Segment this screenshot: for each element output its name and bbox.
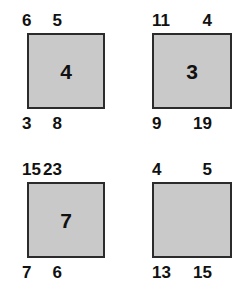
corner-label-top-right: 4 bbox=[203, 12, 212, 29]
puzzle-board: 6 5 4 3 8 11 4 3 9 19 15 23 7 7 6 4 5 13… bbox=[0, 0, 251, 298]
corner-label-bottom-right: 8 bbox=[53, 115, 62, 132]
corner-label-bottom-right: 15 bbox=[193, 264, 212, 281]
corner-label-top-left: 11 bbox=[152, 12, 170, 29]
corner-label-bottom-left: 9 bbox=[152, 115, 161, 132]
corner-label-bottom-left: 3 bbox=[22, 115, 31, 132]
square-shape: 4 bbox=[27, 33, 105, 109]
corner-label-top-right: 5 bbox=[53, 12, 62, 29]
panel-top-left: 6 5 4 3 8 bbox=[0, 0, 106, 149]
corner-label-top-right: 23 bbox=[43, 161, 62, 178]
corner-label-top-left: 6 bbox=[22, 12, 31, 29]
panel-bottom-left: 15 23 7 7 6 bbox=[0, 149, 106, 298]
corner-label-bottom-left: 13 bbox=[152, 264, 171, 281]
corner-label-bottom-right: 6 bbox=[53, 264, 62, 281]
square-shape bbox=[152, 182, 232, 258]
center-value: 7 bbox=[29, 184, 103, 256]
panel-top-right: 11 4 3 9 19 bbox=[125, 0, 231, 149]
corner-label-top-right: 5 bbox=[203, 161, 212, 178]
center-value: 4 bbox=[29, 35, 103, 107]
panel-bottom-right: 4 5 13 15 bbox=[125, 149, 231, 298]
corner-label-top-left: 4 bbox=[152, 161, 161, 178]
square-shape: 7 bbox=[27, 182, 105, 258]
center-value bbox=[154, 184, 230, 256]
center-value: 3 bbox=[154, 35, 230, 107]
corner-label-bottom-right: 19 bbox=[193, 115, 212, 132]
corner-label-top-left: 15 bbox=[22, 161, 41, 178]
corner-label-bottom-left: 7 bbox=[22, 264, 31, 281]
square-shape: 3 bbox=[152, 33, 232, 109]
